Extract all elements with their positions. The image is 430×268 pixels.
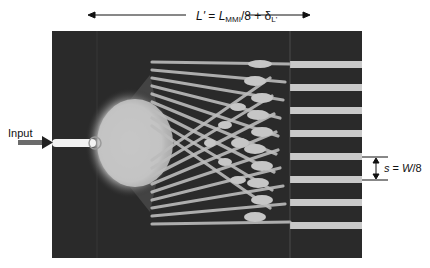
length-equation: L' = LMMI/8 + δL' [196, 9, 277, 24]
mmi-field-plot [0, 0, 430, 268]
input-label: Input [8, 127, 32, 139]
spacing-label: s = W/8 [384, 162, 422, 174]
mmi-figure: L' = LMMI/8 + δL' Input s = W/8 [0, 0, 430, 268]
length-label: L' = LMMI/8 + δL' [0, 7, 430, 27]
